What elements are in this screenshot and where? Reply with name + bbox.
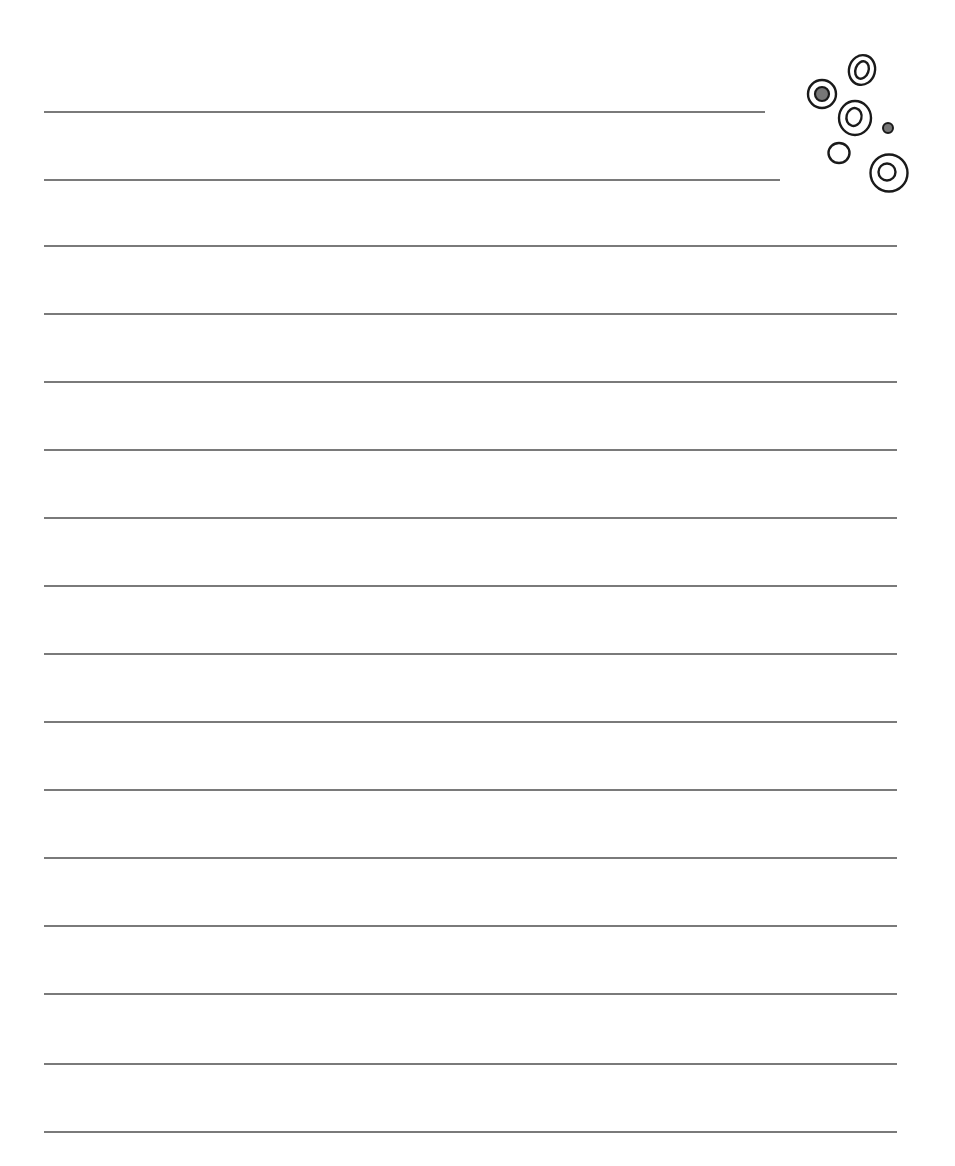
- ruled-line-8: [44, 585, 897, 587]
- ruled-line-6: [44, 449, 897, 451]
- ruled-line-9: [44, 653, 897, 655]
- ruled-line-2: [44, 179, 780, 181]
- lined-paper-page: [0, 0, 955, 1166]
- decorative-circles: [0, 0, 955, 240]
- ruled-line-3: [44, 245, 897, 247]
- ruled-line-7: [44, 517, 897, 519]
- ruled-line-11: [44, 789, 897, 791]
- ruled-line-15: [44, 1063, 897, 1065]
- ruled-line-4: [44, 313, 897, 315]
- ruled-line-13: [44, 925, 897, 927]
- bottom-ring-icon: [871, 155, 908, 192]
- ruled-line-14: [44, 993, 897, 995]
- ruled-line-12: [44, 857, 897, 859]
- small-plain-circle-icon: [829, 143, 850, 163]
- ruled-line-16: [44, 1131, 897, 1133]
- ruled-line-5: [44, 381, 897, 383]
- top-oval-ring-icon: [846, 52, 879, 88]
- ruled-line-1: [44, 111, 765, 113]
- middle-ring-icon: [839, 101, 871, 135]
- ruled-line-10: [44, 721, 897, 723]
- small-dot-icon: [883, 123, 893, 133]
- left-filled-ring-icon: [808, 80, 836, 108]
